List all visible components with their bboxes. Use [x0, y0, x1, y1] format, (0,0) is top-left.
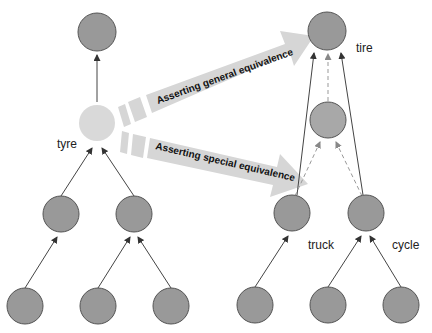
label-truck: truck	[308, 238, 335, 252]
node-left-mid-1	[43, 196, 79, 232]
general-equivalence-arrow: Asserting general equivalence	[118, 31, 314, 127]
label-tyre: tyre	[57, 137, 77, 151]
node-right-leaf-3	[383, 287, 419, 323]
equivalence-diagram: Asserting general equivalence Asserting …	[0, 0, 432, 333]
special-equivalence-arrow: Asserting special equivalence	[120, 131, 308, 197]
node-right-leaf-2	[310, 287, 346, 323]
label-tire: tire	[356, 41, 373, 55]
node-right-middle	[310, 102, 346, 138]
label-cycle: cycle	[392, 238, 420, 252]
node-left-leaf-2	[80, 288, 116, 324]
left-tree-edges	[25, 55, 171, 288]
node-truck	[274, 195, 310, 231]
left-tree-nodes	[7, 13, 189, 324]
node-left-leaf-3	[153, 288, 189, 324]
node-left-leaf-1	[7, 288, 43, 324]
general-equivalence-label: Asserting general equivalence	[155, 46, 295, 106]
node-tire	[308, 12, 346, 50]
node-cycle	[348, 195, 384, 231]
node-left-root	[78, 13, 116, 51]
node-tyre	[79, 105, 115, 141]
node-left-mid-2	[116, 196, 152, 232]
node-right-leaf-1	[237, 287, 273, 323]
